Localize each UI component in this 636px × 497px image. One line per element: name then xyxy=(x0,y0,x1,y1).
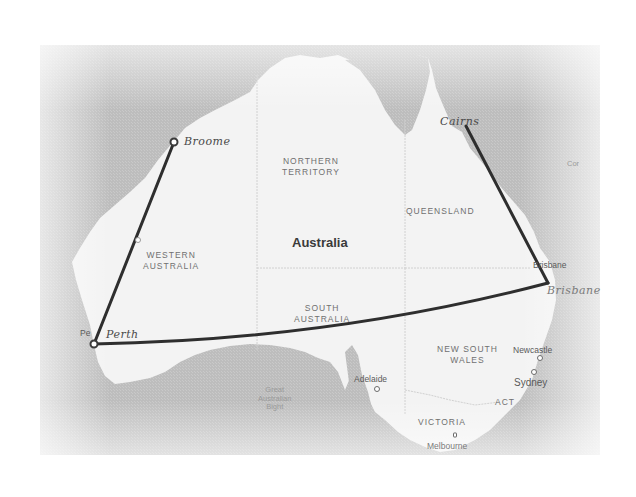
city-marker-sydney[interactable] xyxy=(531,369,537,375)
route-stop-broome-marker[interactable] xyxy=(170,138,179,147)
route-stop-perth-marker[interactable] xyxy=(90,340,99,349)
city-label-sydney[interactable]: Sydney xyxy=(514,378,547,388)
city-marker-newcastle[interactable] xyxy=(537,355,543,361)
sea-label-great-australian-bight: Great Australian Bight xyxy=(258,386,291,412)
route-stop-cairns-label: Cairns xyxy=(440,116,479,127)
city-label-newcastle[interactable]: Newcastle xyxy=(513,346,552,355)
route-stop-perth-label: Perth xyxy=(106,329,139,340)
city-marker-adelaide[interactable] xyxy=(374,386,380,392)
country-label: Australia xyxy=(292,236,348,249)
region-label-act: ACT xyxy=(495,398,515,407)
city-label-brisbane[interactable]: Brisbane xyxy=(533,261,567,270)
region-label-new-south-wales: NEW SOUTH WALES xyxy=(437,345,498,364)
city-label-melbourne[interactable]: Melbourne xyxy=(427,442,467,451)
city-label-perth[interactable]: Pe xyxy=(80,329,90,338)
region-label-western-australia: WESTERN AUSTRALIA xyxy=(143,251,199,270)
region-label-south-australia: SOUTH AUSTRALIA xyxy=(294,304,350,323)
route-stop-broome-label: Broome xyxy=(184,136,231,147)
sea-label-coral-sea: Cor xyxy=(567,160,579,169)
waypoint-marker xyxy=(135,237,141,243)
city-marker-melbourne[interactable] xyxy=(453,433,457,438)
region-label-victoria: VICTORIA xyxy=(418,418,466,427)
region-label-queensland: QUEENSLAND xyxy=(406,207,475,216)
route-stop-brisbane-label: Brisbane xyxy=(547,285,601,296)
map-view[interactable]: Broome Perth Brisbane Cairns Australia N… xyxy=(0,0,636,497)
region-label-northern-territory: NORTHERN TERRITORY xyxy=(282,157,340,176)
city-label-adelaide[interactable]: Adelaide xyxy=(354,375,387,384)
